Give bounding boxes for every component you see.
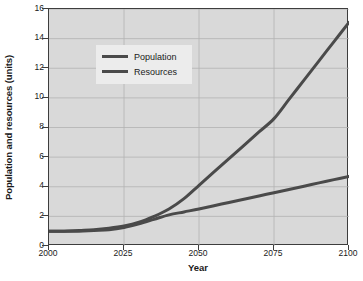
plot-canvas	[49, 9, 349, 246]
plot-area	[48, 8, 348, 245]
y-tick-mark	[42, 215, 48, 216]
x-tick-label: 2100	[328, 248, 363, 258]
y-tick-mark	[42, 186, 48, 187]
y-tick-label: 8	[18, 122, 44, 131]
y-tick-label: 12	[18, 63, 44, 72]
y-tick-mark	[42, 156, 48, 157]
legend-label-population: Population	[134, 52, 177, 62]
x-tick-label: 2050	[178, 248, 218, 258]
chart-legend: Population Resources	[96, 45, 192, 84]
legend-item-population: Population	[102, 49, 186, 64]
chart-figure: Population and resources (units) 0246810…	[0, 0, 363, 281]
y-tick-label: 16	[18, 4, 44, 13]
y-tick-mark	[42, 127, 48, 128]
legend-swatch-population	[102, 55, 128, 59]
y-tick-mark	[42, 97, 48, 98]
x-tick-label: 2025	[103, 248, 143, 258]
y-tick-mark	[42, 38, 48, 39]
y-tick-label: 4	[18, 181, 44, 190]
y-axis-title-text: Population and resources (units)	[4, 55, 15, 200]
y-tick-label: 14	[18, 33, 44, 42]
y-tick-label: 10	[18, 92, 44, 101]
y-axis-tick-labels: 0246810121416	[16, 0, 44, 281]
legend-swatch-resources	[102, 70, 128, 74]
y-tick-mark	[42, 67, 48, 68]
legend-label-resources: Resources	[134, 67, 177, 77]
y-tick-label: 6	[18, 152, 44, 161]
y-tick-label: 2	[18, 211, 44, 220]
legend-item-resources: Resources	[102, 64, 186, 79]
x-axis-title: Year	[48, 262, 348, 273]
x-tick-label: 2000	[28, 248, 68, 258]
x-tick-label: 2075	[253, 248, 293, 258]
y-tick-mark	[42, 8, 48, 9]
